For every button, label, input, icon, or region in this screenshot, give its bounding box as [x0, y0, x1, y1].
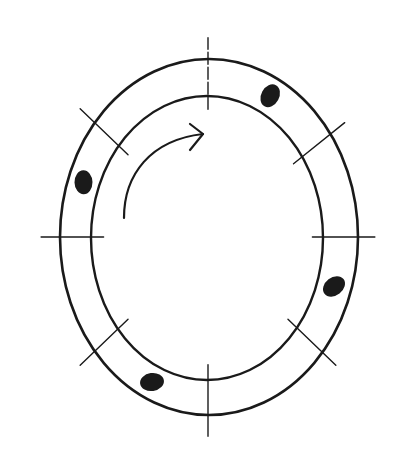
marker-upper-right — [257, 81, 284, 111]
marker-bottom-left — [139, 371, 165, 392]
arrow-head — [190, 124, 203, 150]
ring-diagram — [0, 0, 408, 455]
curved-arrow-right-icon — [124, 124, 203, 218]
arrow-shaft — [124, 134, 203, 218]
division-marks — [41, 38, 375, 437]
marker-right — [319, 272, 349, 301]
inner-ring-outline — [91, 96, 323, 380]
marker-left — [74, 170, 92, 194]
ring-markers — [74, 81, 349, 393]
